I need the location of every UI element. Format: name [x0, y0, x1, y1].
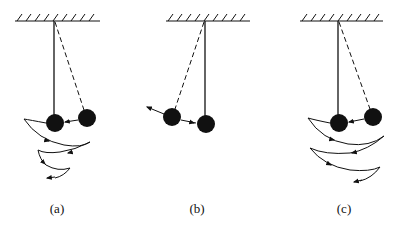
- panel-c: [300, 14, 384, 182]
- rebound-arrow-b: [147, 107, 164, 114]
- panel-b: [147, 14, 250, 133]
- displaced-ball-c: [364, 108, 382, 126]
- ceiling-c: [300, 14, 383, 21]
- panel-label-c: (c): [337, 201, 351, 217]
- dashed-rod-a: [55, 22, 84, 110]
- dashed-rod-b: [175, 22, 204, 109]
- panel-a: [15, 14, 100, 178]
- displaced-ball-b: [163, 108, 181, 126]
- impact-arrow-a: [65, 120, 78, 122]
- panel-label-a: (a): [50, 201, 64, 217]
- ceiling-b: [166, 14, 250, 21]
- impact-arrow-c: [349, 119, 364, 122]
- pendulum-diagram: [0, 0, 398, 226]
- ceiling-a: [15, 14, 100, 21]
- hanging-ball-a: [46, 114, 64, 132]
- panel-label-b: (b): [189, 201, 204, 217]
- hanging-ball-c: [330, 114, 348, 132]
- dashed-rod-c: [339, 22, 370, 109]
- hanging-ball-b: [197, 115, 215, 133]
- displaced-ball-a: [78, 109, 96, 127]
